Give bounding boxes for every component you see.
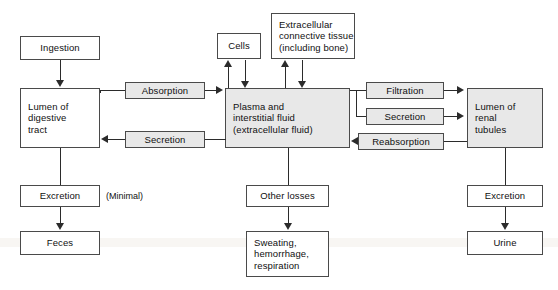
connector-plasma-to-ecm-up bbox=[285, 66, 286, 88]
arrowhead-secretion-renal-to-renal bbox=[457, 112, 464, 120]
connector-renal-to-excretion-right bbox=[505, 148, 506, 185]
arrowhead-filtration-to-renal bbox=[457, 86, 464, 94]
connector-renal-to-reabsorption bbox=[444, 141, 467, 142]
arrowhead-plasma-to-cells-up bbox=[224, 60, 232, 67]
node-lumen-digestive-label: Lumen of digestive tract bbox=[28, 101, 68, 136]
arrowhead-absorption-to-plasma bbox=[216, 86, 223, 94]
connector-plasma-right-bus bbox=[356, 90, 357, 117]
connector-ingestion-to-lumen bbox=[60, 60, 61, 81]
diagram-canvas: Ingestion Lumen of digestive tract Excre… bbox=[0, 0, 558, 290]
node-other-losses-label: Other losses bbox=[260, 190, 315, 202]
node-lumen-digestive: Lumen of digestive tract bbox=[20, 88, 100, 148]
connector-secretion-renal-to-renal bbox=[444, 116, 458, 117]
node-plasma-interstitial-fluid: Plasma and interstitial fluid (extracell… bbox=[225, 88, 350, 148]
connector-secretion-gi-to-lumen bbox=[107, 139, 125, 140]
connector-plasma-to-filtration bbox=[350, 90, 366, 91]
connector-lumen-to-excretion-left bbox=[60, 148, 61, 185]
node-plasma-interstitial-fluid-label: Plasma and interstitial fluid (extracell… bbox=[233, 101, 313, 136]
connector-plasma-to-secretion-renal bbox=[356, 116, 366, 117]
node-sweating-hemorrhage-respiration: Sweating, hemorrhage, respiration bbox=[246, 231, 329, 277]
process-secretion-gi: Secretion bbox=[125, 131, 205, 148]
node-cells-label: Cells bbox=[228, 40, 250, 52]
node-urine: Urine bbox=[467, 231, 543, 255]
arrowhead-cells-to-plasma-down bbox=[241, 81, 249, 88]
connector-filtration-to-renal bbox=[444, 90, 458, 91]
node-sweating-hemorrhage-respiration-label: Sweating, hemorrhage, respiration bbox=[254, 237, 309, 272]
node-excretion-right: Excretion bbox=[467, 185, 543, 207]
connector-lumen-to-absorption bbox=[100, 90, 125, 91]
node-feces: Feces bbox=[20, 231, 100, 255]
node-lumen-renal-tubules-label: Lumen of renal tubules bbox=[475, 101, 515, 136]
arrowhead-other-losses-to-sweating bbox=[284, 223, 292, 230]
connector-plasma-to-cells-up bbox=[228, 66, 229, 88]
arrowhead-reabsorption-to-plasma bbox=[351, 137, 358, 145]
node-extracellular-connective-tissue: Extracellular connective tissue (includi… bbox=[271, 13, 355, 59]
connector-plasma-to-secretion-gi bbox=[205, 139, 226, 140]
process-reabsorption-label: Reabsorption bbox=[372, 136, 430, 148]
arrowhead-ecm-to-plasma-down bbox=[298, 81, 306, 88]
annotation-minimal: (Minimal) bbox=[106, 191, 143, 201]
process-absorption: Absorption bbox=[125, 82, 205, 99]
connector-cells-to-plasma-down bbox=[245, 60, 246, 82]
node-feces-label: Feces bbox=[47, 237, 73, 249]
arrowhead-excretion-right-to-urine bbox=[501, 223, 509, 230]
process-secretion-renal: Secretion bbox=[366, 108, 444, 125]
node-ingestion: Ingestion bbox=[20, 36, 100, 60]
node-other-losses: Other losses bbox=[246, 185, 329, 207]
connector-ecm-to-plasma-down bbox=[302, 60, 303, 82]
node-excretion-right-label: Excretion bbox=[485, 190, 526, 202]
process-secretion-gi-label: Secretion bbox=[144, 134, 185, 146]
arrowhead-ingestion-to-lumen bbox=[56, 80, 64, 87]
process-filtration: Filtration bbox=[366, 82, 444, 99]
process-absorption-label: Absorption bbox=[142, 85, 188, 97]
connector-plasma-to-other-losses bbox=[288, 148, 289, 185]
process-reabsorption: Reabsorption bbox=[358, 133, 444, 150]
node-ingestion-label: Ingestion bbox=[40, 42, 79, 54]
connector-lumen-absorption-riser bbox=[100, 90, 101, 93]
node-lumen-renal-tubules: Lumen of renal tubules bbox=[467, 88, 543, 148]
node-cells: Cells bbox=[217, 33, 261, 59]
arrowhead-plasma-to-ecm-up bbox=[281, 60, 289, 67]
node-excretion-left: Excretion bbox=[20, 185, 100, 207]
process-secretion-renal-label: Secretion bbox=[384, 111, 425, 123]
connector-other-losses-to-sweating bbox=[288, 207, 289, 224]
arrowhead-excretion-to-feces bbox=[56, 223, 64, 230]
connector-excretion-right-to-urine bbox=[505, 207, 506, 224]
node-excretion-left-label: Excretion bbox=[40, 190, 81, 202]
node-extracellular-connective-tissue-label: Extracellular connective tissue (includi… bbox=[279, 19, 354, 54]
node-urine-label: Urine bbox=[493, 237, 516, 249]
process-filtration-label: Filtration bbox=[386, 85, 423, 97]
connector-excretion-to-feces bbox=[60, 207, 61, 224]
